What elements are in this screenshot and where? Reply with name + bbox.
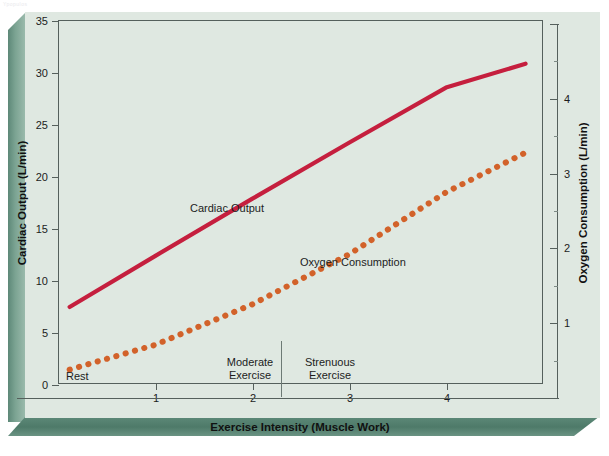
y-axis-left-tick	[52, 73, 59, 74]
y-axis-right-tick-label: 1	[564, 317, 570, 329]
y-axis-left-tick-label: 20	[36, 171, 48, 183]
zone-moderate-label: Moderate Exercise	[227, 356, 273, 382]
y-axis-right-minor-tick	[554, 361, 558, 362]
y-axis-right-tick	[550, 174, 558, 175]
x-axis-tick	[447, 383, 448, 390]
y-axis-left-tick	[52, 229, 59, 230]
y-axis-left-title: Cardiac Output (L/min)	[16, 141, 28, 266]
y-axis-right-minor-tick	[554, 211, 558, 212]
x-axis-tick	[350, 383, 351, 390]
zone-rest-label: Rest	[66, 370, 89, 382]
y-axis-left-tick-label: 0	[42, 379, 48, 391]
x-axis-tick	[156, 383, 157, 390]
y-axis-left-tick	[52, 177, 59, 178]
watermark-text: Ypopulos	[3, 1, 59, 11]
y-axis-right-cap-top	[550, 24, 559, 25]
y-axis-right-tick-label: 3	[564, 168, 570, 180]
y-axis-right-tick-label: 2	[564, 242, 570, 254]
zone-strenuous-line2: Exercise	[305, 369, 355, 382]
y-axis-left-tick-label: 35	[36, 15, 48, 27]
y-axis-left-tick-label: 15	[36, 223, 48, 235]
zone-moderate-line1: Moderate	[227, 356, 273, 369]
y-axis-right-cap-bottom	[550, 398, 559, 399]
zone-strenuous-line1: Strenuous	[305, 356, 355, 369]
y-axis-right: 1234	[557, 24, 558, 398]
y-axis-left-tick-label: 30	[36, 67, 48, 79]
y-axis-right-tick	[550, 323, 558, 324]
y-axis-right-minor-tick	[554, 136, 558, 137]
chart-figure: Ypopulos 05101520253035 1234 1234 Cardia…	[0, 0, 609, 456]
y-axis-right-tick-label: 4	[564, 93, 570, 105]
y-axis-left-tick	[52, 21, 59, 22]
y-axis-left-tick	[52, 385, 59, 386]
y-axis-left-tick	[52, 125, 59, 126]
y-axis-left-tick	[52, 333, 59, 334]
x-axis-tick	[253, 383, 254, 390]
y-axis-right-tick	[550, 248, 558, 249]
y-axis-left-tick-label: 10	[36, 275, 48, 287]
plot-area: 05101520253035 1234	[58, 20, 543, 384]
y-axis-right-minor-tick	[554, 286, 558, 287]
cardiac-output-label: Cardiac Output	[190, 202, 264, 214]
y-axis-left-tick-label: 5	[42, 327, 48, 339]
zone-strenuous-label: Strenuous Exercise	[305, 356, 355, 382]
oxygen-consumption-label: Oxygen Consumption	[300, 256, 406, 268]
y-axis-right-minor-tick	[554, 61, 558, 62]
y-axis-right-tick	[550, 99, 558, 100]
zone-moderate-line2: Exercise	[227, 369, 273, 382]
x-axis-baseline	[17, 398, 557, 399]
x-axis-title: Exercise Intensity (Muscle Work)	[210, 421, 389, 433]
zone-divider-line	[281, 341, 282, 397]
y-axis-left-tick	[52, 281, 59, 282]
y-axis-right-title: Oxygen Consumption (L/min)	[577, 123, 589, 284]
y-axis-left-tick-label: 25	[36, 119, 48, 131]
